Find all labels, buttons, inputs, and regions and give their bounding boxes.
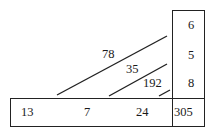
- column-value-1: 6: [188, 18, 194, 32]
- column-value-3: 8: [188, 76, 194, 90]
- corner-value: 305: [174, 105, 193, 119]
- row-value-2: 7: [84, 105, 90, 119]
- diagonal-label-3: 192: [143, 76, 162, 90]
- column-value-2: 5: [188, 48, 194, 62]
- row-value-3: 24: [136, 105, 149, 119]
- diagonal-label-1: 78: [102, 47, 115, 61]
- diagonal-label-2: 35: [126, 62, 139, 76]
- row-value-1: 13: [21, 105, 34, 119]
- diagonal-line-3: [159, 90, 170, 96]
